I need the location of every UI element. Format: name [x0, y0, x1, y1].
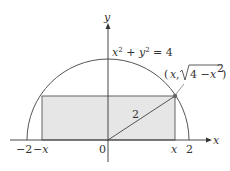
svg-text:): )	[222, 68, 226, 81]
corner-point	[173, 94, 177, 98]
point-label: ( x , 4 − x 2 )	[164, 62, 226, 81]
svg-text:4 −: 4 −	[190, 68, 210, 81]
equation-label: x2 + y2 = 4	[112, 46, 173, 59]
tick-label-zero: 0	[99, 143, 106, 156]
x-axis-arrow-icon	[206, 138, 212, 143]
tick-label-x: x	[171, 143, 178, 156]
x-axis-label: x	[213, 134, 220, 147]
diagram: x y x2 + y2 = 4 ( x , 4 − x 2 ) 2 −2 −x …	[0, 0, 230, 171]
tick-label-2: 2	[186, 143, 193, 156]
inscribed-rectangle	[42, 96, 175, 140]
svg-text:(: (	[164, 68, 168, 81]
tick-label-neg-x: −x	[33, 143, 49, 156]
y-axis-label: y	[103, 11, 111, 24]
tick-label-neg2: −2	[16, 143, 32, 156]
point-leader	[176, 84, 184, 94]
svg-text:,: ,	[176, 68, 180, 81]
svg-text:x: x	[210, 68, 217, 81]
radius-label: 2	[132, 108, 139, 121]
